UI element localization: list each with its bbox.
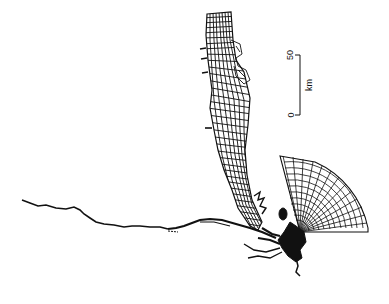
bay-grid: [200, 12, 272, 230]
offshore-fan-grid: [280, 156, 368, 232]
estuary-grid-map: [0, 0, 389, 304]
scale-bottom-label: 0: [286, 112, 296, 117]
scale-top-label: 50: [285, 50, 295, 60]
scale-unit-label: km: [304, 79, 314, 91]
scale-bar: [295, 55, 300, 115]
